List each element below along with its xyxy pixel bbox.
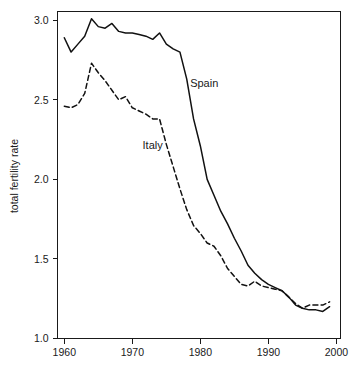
plot-frame xyxy=(58,12,341,339)
y-tick-label: 3.0 xyxy=(34,14,49,26)
x-tick-label: 1970 xyxy=(121,346,145,358)
chart-svg: 1.01.52.02.53.019601970198019902000 Spai… xyxy=(0,0,360,373)
x-tick-label: 2000 xyxy=(325,346,349,358)
series-annotations: SpainItaly xyxy=(143,77,219,151)
x-tick-label: 1960 xyxy=(53,346,77,358)
y-tick-label: 2.5 xyxy=(34,94,49,106)
series-line-spain xyxy=(64,19,329,312)
chart-axes xyxy=(58,12,341,339)
y-tick-label: 2.0 xyxy=(34,173,49,185)
data-series xyxy=(64,19,329,312)
series-label-spain: Spain xyxy=(190,77,218,89)
y-tick-label: 1.5 xyxy=(34,253,49,265)
axis-tick-labels: 1.01.52.02.53.019601970198019902000 xyxy=(34,14,348,357)
series-label-italy: Italy xyxy=(143,139,164,151)
series-line-italy xyxy=(64,63,329,308)
x-tick-label: 1980 xyxy=(189,346,213,358)
y-tick-label: 1.0 xyxy=(34,332,49,344)
x-tick-label: 1990 xyxy=(257,346,281,358)
y-axis-title: total fertility rate xyxy=(8,139,20,213)
fertility-rate-chart: 1.01.52.02.53.019601970198019902000 Spai… xyxy=(0,0,360,373)
